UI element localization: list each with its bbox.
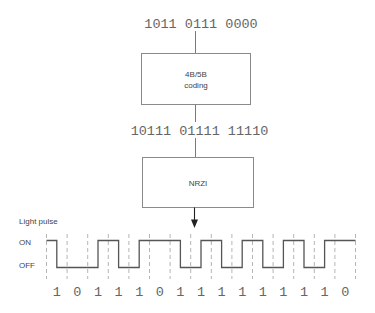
encoded-bits-label: 10111 01111 11110 bbox=[131, 124, 269, 139]
encoder-box-frame bbox=[142, 54, 251, 105]
bit-label: 1 bbox=[135, 285, 143, 300]
input-bits-label: 1011 0111 0000 bbox=[144, 17, 257, 32]
encoder-box-subtitle: coding bbox=[184, 81, 208, 90]
nrzi-waveform bbox=[47, 241, 356, 268]
encoder-box: 4B/5B coding bbox=[142, 54, 251, 105]
bit-label: 1 bbox=[53, 285, 61, 300]
bit-label: 0 bbox=[156, 285, 164, 300]
bit-label: 1 bbox=[300, 285, 308, 300]
encoder-box-title: 4B/5B bbox=[185, 70, 207, 79]
bit-label: 1 bbox=[321, 285, 329, 300]
nrzi-box-label: NRZI bbox=[189, 179, 208, 188]
bit-labels: 101110111111110 bbox=[53, 285, 350, 300]
bit-label: 1 bbox=[197, 285, 205, 300]
bit-label: 1 bbox=[115, 285, 123, 300]
bit-label: 1 bbox=[238, 285, 246, 300]
signal-title: Light pulse bbox=[19, 217, 58, 226]
on-level-label: ON bbox=[19, 238, 31, 247]
bit-label: 1 bbox=[94, 285, 102, 300]
nrzi-encoding-diagram: 1011 0111 0000 4B/5B coding 10111 01111 … bbox=[0, 0, 375, 313]
bit-label: 1 bbox=[259, 285, 267, 300]
bit-label: 1 bbox=[218, 285, 226, 300]
bit-label: 1 bbox=[176, 285, 184, 300]
bit-label: 1 bbox=[279, 285, 287, 300]
bit-label: 0 bbox=[73, 285, 81, 300]
bit-label: 0 bbox=[341, 285, 349, 300]
arrow-down-icon bbox=[191, 208, 198, 229]
off-level-label: OFF bbox=[19, 261, 35, 270]
nrzi-box: NRZI bbox=[143, 158, 254, 208]
